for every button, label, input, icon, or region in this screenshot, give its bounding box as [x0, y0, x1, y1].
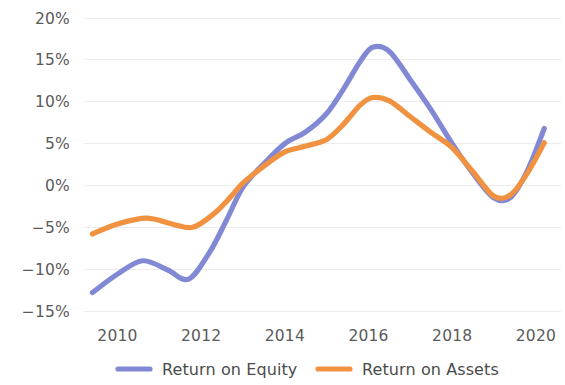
y-axis-tick-label: 5% [45, 135, 70, 153]
x-axis-tick-label: 2020 [516, 327, 556, 345]
y-axis-tick-label: 20% [35, 10, 70, 28]
y-axis-tick-label: 0% [45, 177, 70, 195]
y-axis-tick-label: 15% [35, 51, 70, 69]
x-axis-tick-label: 2016 [348, 327, 388, 345]
chart-canvas: 20%15%10%5%0%−5%−10%−15% 201020122014201… [0, 0, 565, 385]
y-axis-tick-label: −5% [32, 219, 70, 237]
y-axis-tick-label: −15% [22, 303, 70, 321]
x-axis-tick-label: 2014 [265, 327, 305, 345]
legend-label[interactable]: Return on Equity [162, 360, 297, 379]
line-chart: 20%15%10%5%0%−5%−10%−15% 201020122014201… [0, 0, 565, 385]
x-axis-tick-label: 2018 [432, 327, 472, 345]
y-axis-tick-label: −10% [22, 261, 70, 279]
y-axis-tick-label: 10% [35, 93, 70, 111]
x-axis-tick-label: 2012 [181, 327, 221, 345]
legend-label[interactable]: Return on Assets [362, 360, 499, 379]
x-axis-tick-label: 2010 [97, 327, 137, 345]
